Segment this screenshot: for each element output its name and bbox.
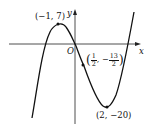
y-axis-label: y [67, 9, 72, 18]
label-separator: , − [97, 55, 109, 64]
local-minimum-label: (2, −20) [96, 111, 131, 120]
y-axis-arrow-icon [73, 9, 77, 15]
x-axis-label: x [139, 47, 144, 56]
y-axis [73, 9, 77, 124]
fraction-thirteen-halves: 132 [109, 53, 119, 68]
origin-label: O [67, 47, 74, 56]
inflection-point-label: (12, −132) [86, 53, 124, 68]
local-minimum-point [106, 106, 109, 109]
local-maximum-point [57, 23, 60, 26]
label-close-paren: ) [119, 53, 124, 67]
local-maximum-label: (−1, 7) [35, 12, 65, 21]
inflection-point-marker [82, 64, 85, 67]
